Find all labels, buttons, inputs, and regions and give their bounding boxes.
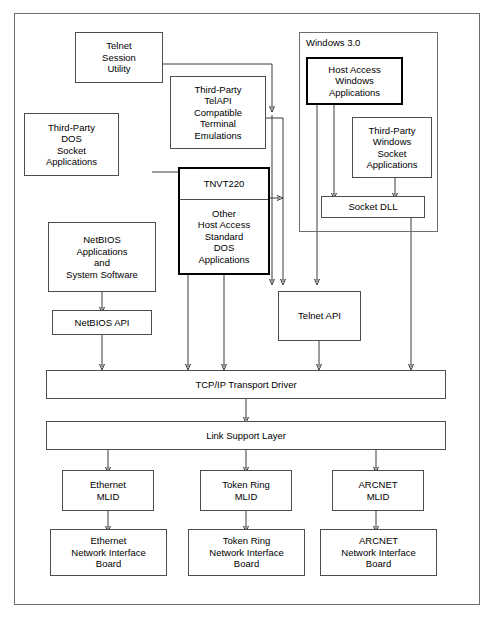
box-line: Emulations xyxy=(195,130,242,142)
box-line: NetBIOS xyxy=(83,234,121,246)
box-line: Token Ring xyxy=(222,479,270,491)
box-line: Utility xyxy=(107,63,130,75)
box-line: Board xyxy=(366,558,391,570)
box-line: TNVT220 xyxy=(204,178,245,190)
box-arcnet-network-interface-board[interactable]: ARCNET Network Interface Board xyxy=(320,529,437,576)
box-line: ARCNET xyxy=(358,479,397,491)
box-line: DOS xyxy=(61,133,82,145)
box-telnet-session-utility[interactable]: Telnet Session Utility xyxy=(75,32,163,83)
box-line: TelAPI xyxy=(204,95,231,107)
box-line: MLID xyxy=(235,491,258,503)
box-line: Applications xyxy=(46,156,97,168)
box-line: DOS xyxy=(214,242,235,254)
box-tcpip-transport-driver[interactable]: TCP/IP Transport Driver xyxy=(46,370,446,399)
box-line: Network Interface xyxy=(341,547,415,559)
box-line: Socket DLL xyxy=(348,201,397,213)
box-line: Other xyxy=(212,208,236,220)
box-line: Socket xyxy=(377,148,406,160)
box-line: Token Ring xyxy=(223,535,271,547)
box-line: Link Support Layer xyxy=(206,430,286,442)
box-netbios-applications[interactable]: NetBIOS Applications and System Software xyxy=(48,222,156,292)
box-third-party-windows-socket[interactable]: Third-Party Windows Socket Applications xyxy=(352,117,432,178)
box-line: System Software xyxy=(66,269,138,281)
box-tnvt220-host-access-dos[interactable]: TNVT220 Other Host Access Standard DOS A… xyxy=(178,167,270,275)
box-line: MLID xyxy=(367,491,390,503)
box-other-host-access-dos[interactable]: Other Host Access Standard DOS Applicati… xyxy=(180,200,268,273)
box-line: Standard xyxy=(205,231,244,243)
box-line: Ethernet xyxy=(90,479,126,491)
box-line: Board xyxy=(234,558,259,570)
box-line: Host Access xyxy=(328,64,380,76)
box-socket-dll[interactable]: Socket DLL xyxy=(321,196,425,218)
box-line: Applications xyxy=(366,159,417,171)
box-ethernet-network-interface-board[interactable]: Ethernet Network Interface Board xyxy=(50,529,167,576)
box-token-ring-mlid[interactable]: Token Ring MLID xyxy=(200,470,292,511)
box-token-ring-network-interface-board[interactable]: Token Ring Network Interface Board xyxy=(188,529,305,576)
box-tnvt220[interactable]: TNVT220 xyxy=(180,169,268,200)
box-line: Windows xyxy=(373,136,412,148)
box-line: Applications xyxy=(329,87,380,99)
box-line: Telnet API xyxy=(298,310,341,322)
box-third-party-telapi[interactable]: Third-Party TelAPI Compatible Terminal E… xyxy=(170,76,266,149)
box-line: Ethernet xyxy=(91,535,127,547)
box-link-support-layer[interactable]: Link Support Layer xyxy=(46,421,446,450)
box-line: NetBIOS API xyxy=(75,317,130,329)
box-line: Telnet xyxy=(106,40,131,52)
box-line: ARCNET xyxy=(359,535,398,547)
box-arcnet-mlid[interactable]: ARCNET MLID xyxy=(332,470,424,511)
box-line: and xyxy=(94,257,110,269)
box-line: Network Interface xyxy=(71,547,145,559)
group-windows-30-label: Windows 3.0 xyxy=(306,37,360,49)
box-line: Third-Party xyxy=(195,84,242,96)
box-line: Socket xyxy=(57,145,86,157)
box-line: Host Access xyxy=(198,219,250,231)
box-line: Third-Party xyxy=(369,125,416,137)
box-line: Board xyxy=(96,558,121,570)
box-line: Session xyxy=(102,52,136,64)
box-line: MLID xyxy=(97,491,120,503)
box-host-access-windows-applications[interactable]: Host Access Windows Applications xyxy=(306,57,403,105)
box-line: Compatible xyxy=(194,107,242,119)
box-netbios-api[interactable]: NetBIOS API xyxy=(52,310,152,335)
box-telnet-api[interactable]: Telnet API xyxy=(278,291,361,341)
diagram-canvas: Windows 3.0 xyxy=(0,0,493,619)
box-third-party-dos-socket[interactable]: Third-Party DOS Socket Applications xyxy=(24,113,119,176)
box-line: Terminal xyxy=(200,118,236,130)
box-line: Applications xyxy=(76,246,127,258)
box-line: Network Interface xyxy=(209,547,283,559)
box-line: Third-Party xyxy=(48,122,95,134)
box-line: TCP/IP Transport Driver xyxy=(195,379,296,391)
box-ethernet-mlid[interactable]: Ethernet MLID xyxy=(62,470,154,511)
box-line: Windows xyxy=(335,75,374,87)
box-line: Applications xyxy=(198,254,249,266)
